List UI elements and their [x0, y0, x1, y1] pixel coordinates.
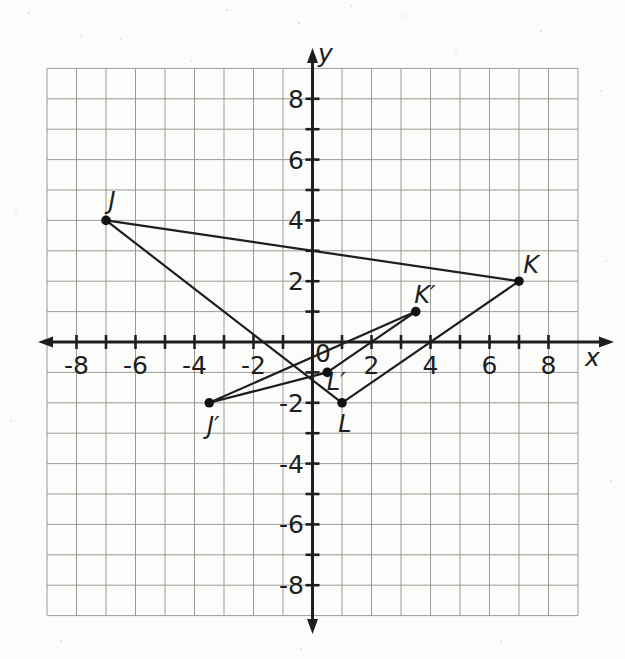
worksheet-page: xy-8-6-4-224688642-2-4-6-80JKLJ′K′L′ [0, 0, 625, 659]
y-tick-label: -8 [279, 571, 304, 600]
x-axis-arrowhead-right [599, 337, 614, 348]
x-tick-label: -4 [182, 351, 207, 380]
x-tick-label: 8 [541, 351, 557, 380]
y-tick-label: 6 [288, 146, 304, 175]
y-tick-label: -2 [279, 389, 304, 418]
paper-speckle-texture [0, 0, 2, 2]
y-axis-arrowhead-bottom [307, 619, 318, 634]
y-tick-label: 4 [288, 206, 304, 235]
y-axis-arrowhead-top [307, 48, 318, 63]
y-axis-label: y [317, 39, 334, 68]
point-j-prime [204, 398, 214, 408]
x-tick-label: -2 [241, 351, 266, 380]
point-label-l-prime: L′ [327, 368, 346, 396]
point-label-j-prime: J′ [203, 412, 220, 440]
y-tick-label: -6 [279, 510, 304, 539]
x-tick-label: 6 [482, 351, 498, 380]
x-tick-label: 2 [364, 351, 380, 380]
x-tick-label: -6 [123, 351, 148, 380]
point-label-k-prime: K′ [414, 281, 436, 309]
x-tick-label: -8 [64, 351, 89, 380]
x-axis-arrowhead-left [38, 337, 53, 348]
point-label-k: K [523, 251, 541, 279]
point-label-l: L [338, 410, 351, 438]
point-l [337, 398, 347, 408]
y-tick-label: 8 [288, 85, 304, 114]
y-tick-label: -4 [279, 450, 304, 479]
coordinate-plane-figure: xy-8-6-4-224688642-2-4-6-80JKLJ′K′L′ [0, 0, 625, 659]
y-tick-label: 2 [288, 267, 304, 296]
point-j [101, 216, 111, 226]
x-axis-label: x [584, 343, 600, 372]
x-tick-label: 4 [423, 351, 439, 380]
